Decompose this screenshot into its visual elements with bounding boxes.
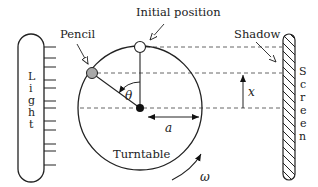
light-rays (44, 47, 56, 165)
omega-label: ω (200, 170, 210, 184)
light-source: L i g h t (18, 34, 56, 182)
turntable-center-dot (136, 104, 144, 112)
screen-letter: n (299, 130, 306, 143)
turntable-label: Turntable (113, 147, 170, 161)
screen-letter: S (299, 65, 307, 78)
turntable-diagram: L i g h t θ a Pencil Initial position Sh… (0, 0, 318, 187)
initial-position-label: Initial position (136, 5, 221, 19)
screen-letter: r (300, 91, 306, 104)
screen-letter: e (300, 104, 307, 117)
theta-label: θ (125, 89, 133, 103)
pencil-radius-line (96, 76, 140, 108)
initial-position-marker (135, 42, 146, 53)
x-label: x (248, 85, 255, 99)
pencil-callout-arrow (77, 44, 88, 64)
shadow-callout-arrow (256, 42, 276, 62)
light-letter: t (29, 118, 34, 131)
arrowhead-left (148, 114, 155, 120)
a-label: a (165, 121, 172, 135)
screen-letter: e (300, 117, 307, 130)
shadow-label: Shadow (234, 27, 280, 41)
pencil-label: Pencil (60, 27, 96, 41)
pencil-marker (87, 68, 98, 79)
screen-letter: c (300, 78, 306, 91)
screen: S c r e e n (283, 34, 307, 180)
initial-callout-arrow (150, 24, 164, 40)
